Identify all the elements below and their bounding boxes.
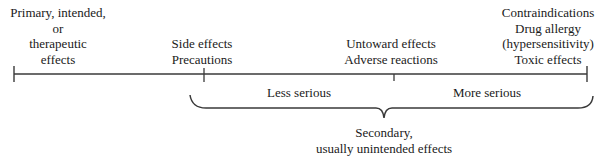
- label-line: Side effects: [172, 36, 233, 52]
- untoward-effects-label: Untoward effects Adverse reactions: [344, 36, 438, 67]
- label-line: Adverse reactions: [344, 52, 438, 68]
- label-line: Drug allergy: [502, 21, 594, 37]
- label-line: Less serious: [267, 85, 331, 101]
- side-effects-label: Side effects Precautions: [172, 36, 233, 67]
- label-line: Primary, intended,: [10, 5, 106, 21]
- label-line: or: [10, 21, 106, 37]
- label-line: Toxic effects: [502, 52, 594, 68]
- label-line: Secondary,: [316, 125, 452, 141]
- contraindications-label: Contraindications Drug allergy (hypersen…: [502, 5, 594, 67]
- label-line: Contraindications: [502, 5, 594, 21]
- secondary-effects-brace: [190, 95, 593, 118]
- less-serious-label: Less serious: [267, 85, 331, 101]
- label-line: usually unintended effects: [316, 141, 452, 157]
- label-line: effects: [10, 52, 106, 68]
- label-line: (hypersensitivity): [502, 36, 594, 52]
- more-serious-label: More serious: [453, 85, 521, 101]
- primary-effects-label: Primary, intended, or therapeutic effect…: [10, 5, 106, 67]
- label-line: therapeutic: [10, 36, 106, 52]
- label-line: More serious: [453, 85, 521, 101]
- label-line: Untoward effects: [344, 36, 438, 52]
- label-line: Precautions: [172, 52, 233, 68]
- secondary-effects-label: Secondary, usually unintended effects: [316, 125, 452, 156]
